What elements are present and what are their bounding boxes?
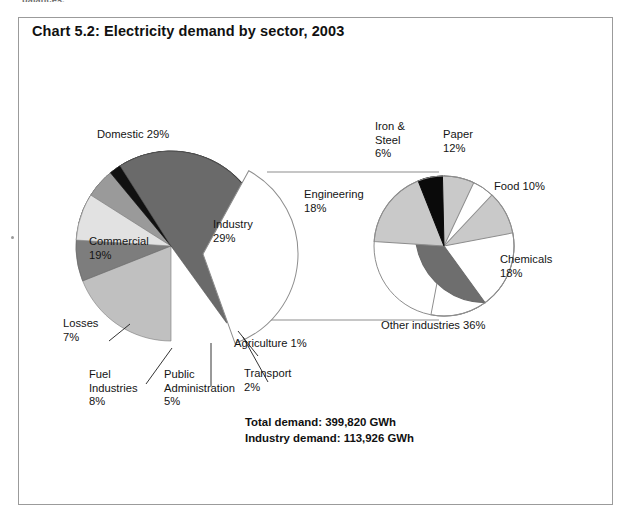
chart-page: balances. Chart 5.2: Electricity demand … xyxy=(0,0,630,518)
total-demand-text: Total demand: 399,820 GWh xyxy=(245,414,396,430)
label-commercial: Commercial 19% xyxy=(89,235,149,262)
label-chemicals: Chemicals 18% xyxy=(500,253,552,280)
industry-demand-text: Industry demand: 113,926 GWh xyxy=(245,430,414,446)
label-food: Food 10% xyxy=(494,180,545,194)
label-engineering: Engineering 18% xyxy=(304,188,364,215)
label-transport: Transport 2% xyxy=(244,367,291,394)
label-iron-steel: Iron & Steel 6% xyxy=(375,120,405,161)
label-fuel-industries: Fuel Industries 8% xyxy=(89,368,138,409)
page-partial-text: balances. xyxy=(22,0,65,2)
label-other-industries: Other industries 36% xyxy=(381,319,485,333)
label-paper: Paper 12% xyxy=(443,128,473,155)
label-domestic: Domestic 29% xyxy=(97,128,169,142)
label-industry: Industry 29% xyxy=(213,218,253,245)
scan-artifact-dot xyxy=(11,236,14,239)
label-agriculture: Agriculture 1% xyxy=(234,337,307,351)
label-losses: Losses 7% xyxy=(63,317,98,344)
leader-losses xyxy=(109,324,130,341)
label-public-administration: Public Administration 5% xyxy=(164,368,235,409)
